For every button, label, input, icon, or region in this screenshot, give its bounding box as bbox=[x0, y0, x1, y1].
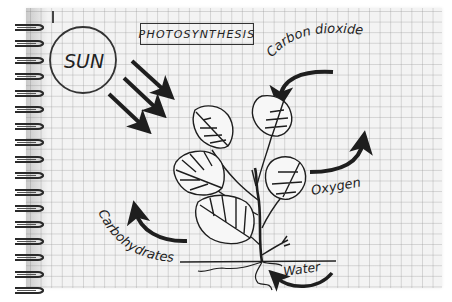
diagram-canvas: PHOTOSYNTHESIS bbox=[0, 0, 452, 302]
diagram-drawing: Carbohydrates Carbon dioxide Oxygen Wate… bbox=[0, 0, 452, 302]
carbon-dioxide-arrow bbox=[280, 72, 333, 98]
carbohydrates-arrow bbox=[136, 212, 187, 241]
sun-label: SUN bbox=[64, 50, 104, 72]
sunlight-arrows bbox=[109, 61, 166, 126]
carbon-dioxide-label: Carbon dioxide bbox=[263, 21, 364, 60]
oxygen-arrow bbox=[310, 142, 363, 172]
oxygen-label: Oxygen bbox=[310, 174, 362, 197]
